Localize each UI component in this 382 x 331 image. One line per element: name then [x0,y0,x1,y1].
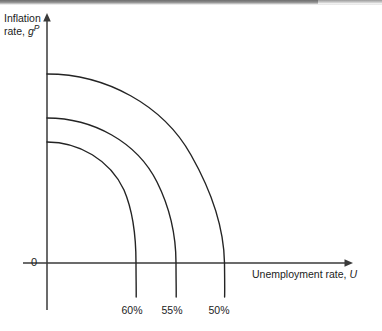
x-axis-arrow-icon [345,259,354,267]
curve-label-50: 50% [199,304,239,316]
y-axis-label-line2-prefix: rate, [4,25,28,37]
curve-label-55: 55% [152,304,192,316]
chart-svg [0,0,382,331]
y-axis-label-superscript: P [34,22,40,32]
x-axis-label: Unemployment rate, U [252,268,357,281]
figure-canvas: Inflation rate, gP Unemployment rate, U … [0,0,382,331]
y-axis-label: Inflation rate, gP [4,12,82,37]
curve-label-60: 60% [112,304,152,316]
origin-tick-label: 0 [31,256,37,269]
curve-60 [47,142,136,297]
x-axis-label-prefix: Unemployment rate, [252,268,349,280]
x-axis-label-variable: U [349,268,357,280]
